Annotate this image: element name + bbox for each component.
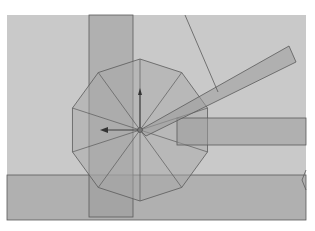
3d-viewport[interactable] (0, 0, 315, 231)
pivot-point-icon[interactable] (138, 128, 143, 133)
viewport-canvas[interactable] (0, 0, 315, 231)
right-bar-object[interactable] (177, 118, 306, 145)
